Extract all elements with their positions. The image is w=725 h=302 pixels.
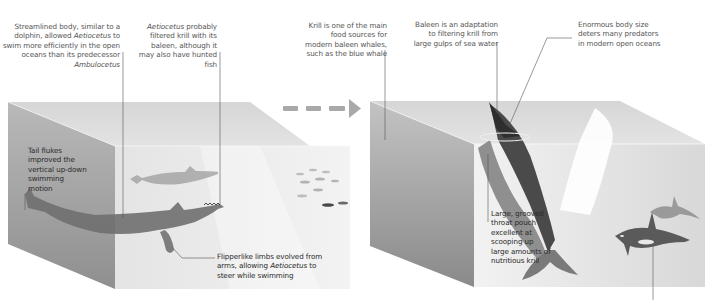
annotation-text: Baleen is an adaptation to filtering kri…	[414, 20, 498, 48]
annotation-text: Krill is one of the main food sources fo…	[305, 21, 387, 58]
annotation-baleen-filter: Aetiocetus probably filtered krill with …	[135, 22, 217, 69]
annotation-text: Large, grooved throat pouch excellent at…	[491, 209, 551, 265]
annotation-throat-pouch: Large, grooved throat pouch excellent at…	[491, 209, 553, 265]
annotation-streamlined-body: Streamlined body, similar to a dolphin, …	[0, 22, 120, 69]
species-name: Aetiocetus	[74, 31, 111, 40]
annotation-tail-flukes: Tail flukes improved the vertical up-dow…	[28, 146, 90, 193]
species-name: Ambulocetus	[74, 60, 120, 69]
annotation-body-size: Enormous body size deters many predators…	[578, 20, 663, 48]
annotation-baleen-adaptation: Baleen is an adaptation to filtering kri…	[410, 20, 498, 48]
annotation-krill-food: Krill is one of the main food sources fo…	[305, 21, 387, 59]
species-name: Aetiocetus	[147, 22, 184, 31]
annotation-text: Enormous body size deters many predators…	[578, 20, 661, 48]
evolution-arrow	[283, 99, 361, 118]
annotation-flipper-limbs: Flipperlike limbs evolved from arms, all…	[217, 252, 327, 280]
species-name: Aetiocetus	[270, 261, 307, 270]
annotation-text: Tail flukes improved the vertical up-dow…	[28, 146, 87, 193]
